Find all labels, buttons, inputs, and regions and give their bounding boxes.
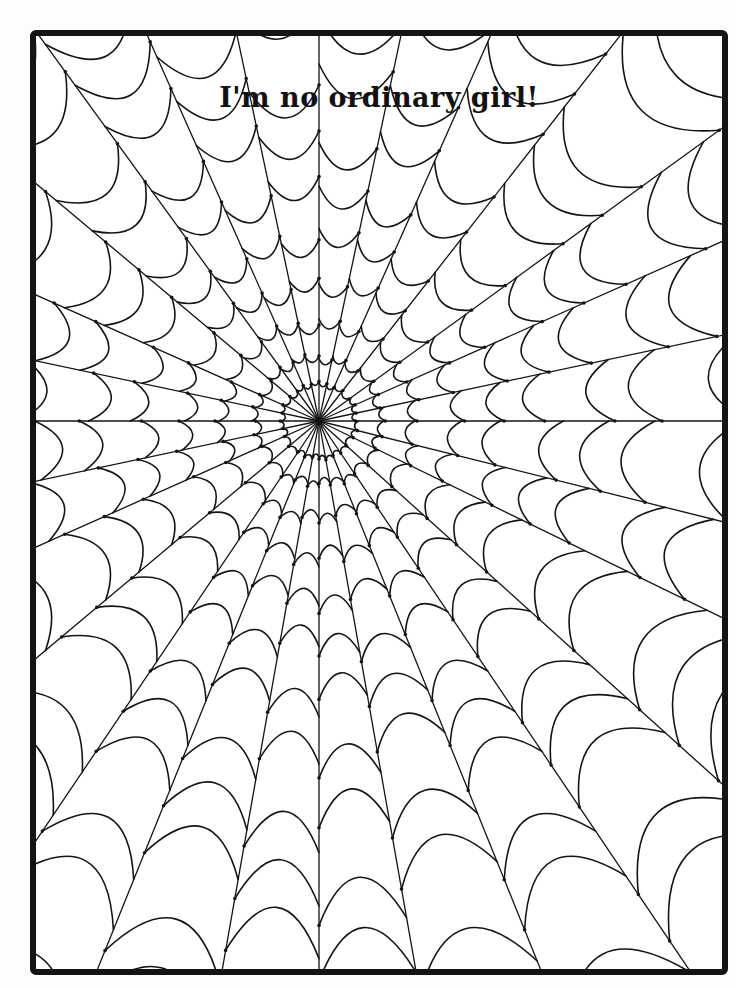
page-frame: I'm no ordinary girl! (30, 30, 728, 975)
spider-web-drawing (36, 36, 722, 969)
coloring-page: I'm no ordinary girl! (0, 0, 736, 988)
page-title: I'm no ordinary girl! (36, 82, 722, 113)
